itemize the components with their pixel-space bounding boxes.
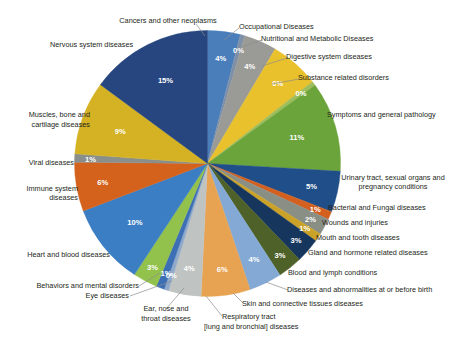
slice-percent-label: 1%: [299, 224, 310, 233]
label-muscles-line2: cartilage diseases: [6, 120, 90, 130]
slice-percent-label: 1%: [310, 205, 321, 214]
label-ent-line2: throat diseases: [126, 314, 206, 324]
leader-birth: [266, 282, 288, 290]
slice-percent-label: 4%: [215, 54, 226, 63]
slice-percent-label: 6%: [97, 178, 108, 187]
slice-percent-label: 1%: [160, 269, 171, 278]
label-heart: Heart and blood diseases: [6, 250, 110, 260]
slice-percent-label: 0%: [296, 89, 307, 98]
label-digestive: Digestive system diseases: [286, 52, 372, 62]
slice-percent-label: 10%: [127, 218, 142, 227]
slice-percent-label: 4%: [244, 62, 255, 71]
label-blood: Blood and lymph conditions: [288, 268, 377, 278]
label-occupational: Occupational Diseases: [239, 22, 314, 32]
label-viral: Viral diseases: [6, 158, 74, 168]
label-behaviors: Behaviors and mental disorders: [10, 281, 139, 291]
label-respiratory-line1: Respiratory tract: [222, 312, 276, 322]
slice-percent-label: 1%: [85, 155, 96, 164]
slice-percent-label: 4%: [184, 264, 195, 273]
label-nervous: Nervous system diseases: [50, 40, 133, 50]
label-muscles-line1: Muscles, bone and: [6, 110, 90, 120]
label-eye: Eye diseases: [40, 291, 129, 301]
slice-percent-label: 6%: [217, 265, 228, 274]
slice-percent-label: 9%: [115, 127, 126, 136]
slice-percent-label: 15%: [158, 76, 173, 85]
label-respiratory-line2: [lung and bronchial] diseases: [204, 322, 299, 332]
pie-chart-figure: 4%0%4%6%0%11%5%1%2%1%3%3%4%6%4%0%1%3%10%…: [0, 0, 459, 343]
label-skin: Skin and connective tissues diseases: [242, 299, 363, 309]
label-bacterial: Bacterial and Fungal diseases: [328, 203, 426, 213]
label-immune-line2: diseases: [6, 193, 78, 203]
label-birth: Diseases and abnormalities at or before …: [287, 285, 432, 295]
label-gland: Gland and hormone related diseases: [308, 248, 428, 258]
label-substance: Substance related disorders: [298, 73, 389, 83]
leader-respiratory: [206, 296, 222, 316]
slice-percent-label: 3%: [275, 251, 286, 260]
label-symptoms: Symptoms and general pathology: [327, 110, 436, 120]
pie-slice-group: [75, 30, 341, 296]
label-mouth: Mouth and tooth diseases: [316, 233, 400, 243]
label-urinary-line2: pregnancy conditions: [330, 182, 456, 192]
slice-percent-label: 5%: [306, 182, 317, 191]
label-nutritional: Nutritional and Metabolic Diseases: [261, 34, 373, 44]
slice-percent-label: 11%: [289, 133, 304, 142]
label-cancers: Cancers and other neoplasms: [108, 16, 228, 26]
slice-percent-label: 3%: [291, 236, 302, 245]
label-ent-line1: Ear, nose and: [126, 304, 206, 314]
slice-percent-label: 3%: [147, 263, 158, 272]
slice-percent-label: 2%: [305, 215, 316, 224]
label-wounds: Wounds and injuries: [322, 218, 388, 228]
slice-percent-label: 4%: [248, 255, 259, 264]
